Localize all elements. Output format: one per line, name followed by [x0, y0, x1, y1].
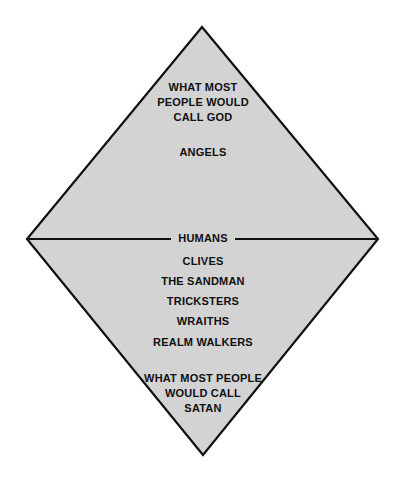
diamond-polygon	[27, 27, 378, 455]
diamond-shape-svg	[0, 0, 406, 482]
diamond-hierarchy-diagram: WHAT MOST PEOPLE WOULD CALL GOD ANGELS H…	[0, 0, 406, 482]
